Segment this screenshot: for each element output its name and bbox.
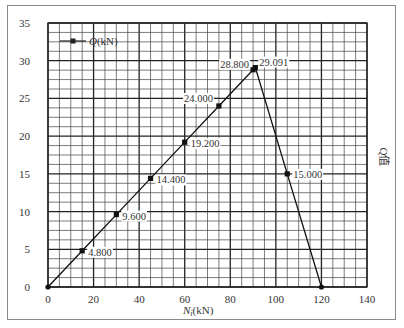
data-point-marker xyxy=(45,284,50,289)
x-tick-label: 140 xyxy=(359,293,376,305)
y-tick-label: 10 xyxy=(19,206,31,218)
data-label: 4.800 xyxy=(88,247,112,258)
y-tick-label: 35 xyxy=(19,17,31,29)
data-point-marker xyxy=(253,65,258,70)
y-tick-label: 15 xyxy=(19,168,31,180)
data-label: 24.000 xyxy=(184,93,213,104)
x-axis-title: Ni(kN) xyxy=(182,304,214,318)
data-point-marker xyxy=(285,171,290,176)
x-tick-label: 120 xyxy=(313,293,330,305)
y-tick-label: 20 xyxy=(19,130,31,142)
data-point-marker xyxy=(148,176,153,181)
data-label: 9.600 xyxy=(122,211,146,222)
y-axis-title: Q值 xyxy=(378,148,390,167)
x-tick-label: 100 xyxy=(268,293,285,305)
data-point-marker xyxy=(319,284,324,289)
y-tick-label: 25 xyxy=(19,92,31,104)
x-tick-label: 40 xyxy=(134,293,146,305)
data-point-marker xyxy=(182,140,187,145)
data-label: 19.200 xyxy=(191,138,220,149)
line-chart: 02040608010012014005101520253035 4.8009.… xyxy=(0,0,404,328)
data-label: 14.400 xyxy=(157,174,186,185)
data-label: 15.000 xyxy=(293,169,322,180)
data-label: 28.800 xyxy=(220,59,249,70)
data-label: 29.091 xyxy=(259,57,288,68)
data-point-marker xyxy=(114,212,119,217)
legend-label: Q(kN) xyxy=(89,35,118,48)
x-tick-label: 0 xyxy=(45,293,51,305)
data-point-marker xyxy=(80,248,85,253)
data-point-marker xyxy=(216,103,221,108)
y-tick-label: 0 xyxy=(25,281,31,293)
legend: Q(kN) xyxy=(60,35,118,48)
x-tick-label: 80 xyxy=(225,293,237,305)
y-tick-label: 30 xyxy=(19,55,31,67)
y-tick-label: 5 xyxy=(25,243,31,255)
x-tick-label: 20 xyxy=(88,293,100,305)
legend-marker-icon xyxy=(71,39,76,44)
